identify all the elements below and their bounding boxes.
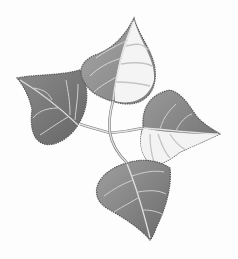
leaves-svg bbox=[0, 0, 238, 259]
bottom-leaf bbox=[97, 160, 171, 240]
left-leaf bbox=[17, 70, 87, 145]
leaf-illustration: Grayscale illustration of four heart-sha… bbox=[0, 0, 238, 259]
stems bbox=[80, 101, 143, 163]
right-leaf bbox=[141, 90, 220, 164]
top-leaf bbox=[81, 18, 155, 104]
